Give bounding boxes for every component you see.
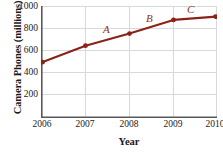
data-point xyxy=(171,18,176,23)
camera-phones-line-chart: Camera Phones (millions) 1000 800 600 40… xyxy=(0,0,223,153)
data-point xyxy=(83,43,88,48)
x-tick-label: 2008 xyxy=(112,120,146,130)
y-axis-tick-labels: 1000 800 600 400 200 xyxy=(10,0,38,125)
y-tick-label: 600 xyxy=(12,46,38,56)
plot-area: A B C xyxy=(41,6,217,118)
chart-canvas xyxy=(41,6,217,118)
x-tick-label: 2010 xyxy=(198,120,223,130)
data-point xyxy=(127,31,132,36)
x-axis-tick-labels: 2006 2007 2008 2009 2010 xyxy=(41,120,217,134)
x-axis-label: Year xyxy=(41,136,217,147)
segment-label-a: A xyxy=(103,24,110,35)
x-tick-label: 2007 xyxy=(68,120,102,130)
y-tick-label: 800 xyxy=(12,24,38,34)
x-tick-label: 2009 xyxy=(156,120,190,130)
data-point xyxy=(213,14,217,19)
y-tick-label: 200 xyxy=(12,90,38,100)
segment-label-c: C xyxy=(187,4,194,15)
segment-label-b: B xyxy=(146,13,153,24)
y-tick-label: 400 xyxy=(12,68,38,78)
x-tick-label: 2006 xyxy=(25,120,59,130)
y-tick-label: 1000 xyxy=(12,2,38,12)
